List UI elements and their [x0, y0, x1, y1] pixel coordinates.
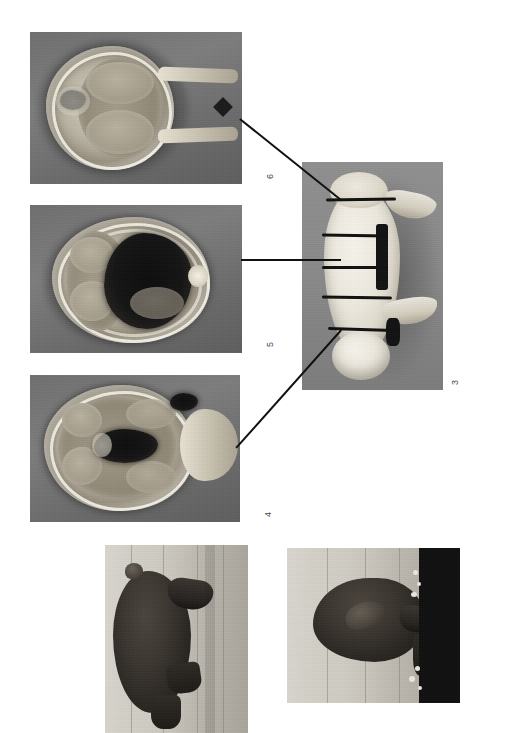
ct-lobe-upper-right	[126, 399, 176, 429]
ct-lobe-upper-left	[62, 403, 102, 437]
ct-lobe-upper	[86, 62, 154, 104]
panel-4-image	[30, 375, 240, 522]
carcass-rear	[332, 332, 390, 380]
panel-3	[302, 162, 443, 390]
leader-line-5	[241, 259, 341, 261]
live-pig-hindleg	[151, 695, 181, 729]
ct-spine	[56, 86, 90, 116]
ct-lobe-lower-right	[126, 461, 176, 493]
panel-6-image	[30, 32, 242, 184]
ct-spine	[188, 265, 208, 287]
leader-line-6	[240, 118, 342, 200]
photo-live-side	[105, 545, 248, 733]
figure-plate: 6 5	[0, 0, 510, 733]
photo-live-side-image	[105, 545, 248, 733]
panel-4	[30, 375, 240, 522]
live-pig-ear	[125, 563, 143, 579]
pen-plank	[197, 545, 198, 733]
photo-live-head	[287, 548, 460, 703]
ct-vertebra	[92, 433, 112, 457]
ct-lobe-lower	[86, 110, 154, 154]
floor-speck	[413, 570, 418, 575]
photo-live-head-image	[287, 548, 460, 703]
floor-speck	[417, 582, 421, 586]
floor-speck	[411, 592, 417, 597]
panel-6-number: 6	[266, 174, 275, 179]
panel-5	[30, 205, 242, 353]
ct-viscera	[130, 287, 184, 319]
panel-4-number: 4	[264, 512, 273, 517]
floor-speck	[418, 686, 422, 690]
carcass-head	[330, 172, 388, 208]
pen-plank	[223, 545, 224, 733]
floor-speck	[409, 676, 415, 682]
pen-floor-dark	[419, 548, 460, 703]
ct-limb-lower	[158, 127, 238, 144]
panel-3-image	[302, 162, 443, 390]
floor-speck	[415, 666, 420, 671]
panel-5-image	[30, 205, 242, 353]
panel-3-number: 3	[451, 380, 460, 385]
ct-limb-upper	[158, 67, 238, 84]
panel-5-number: 5	[266, 342, 275, 347]
pen-floor-edge	[205, 545, 215, 733]
section-band-3	[322, 266, 388, 269]
panel-6	[30, 32, 242, 184]
